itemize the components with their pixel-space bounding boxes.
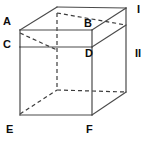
vertex-label-c: C <box>3 39 11 50</box>
edge-F-rightlower <box>92 92 126 115</box>
cuboid-figure: A B C D E F I II <box>0 0 149 146</box>
edge-topbackleft-topbackright <box>57 7 126 8</box>
hidden-edges-group <box>20 13 126 114</box>
edge-D-rightmid <box>92 25 126 47</box>
hidden-E-backbottom-diagonal <box>20 90 57 114</box>
vertex-label-a: A <box>3 16 11 27</box>
edge-A-topbackleft <box>20 7 57 30</box>
vertex-label-b: B <box>84 18 92 29</box>
edge-B-topbackright <box>92 8 126 30</box>
region-label-one: I <box>137 4 140 15</box>
vertex-label-f: F <box>86 124 93 135</box>
vertex-label-e: E <box>6 124 13 135</box>
vertex-label-d: D <box>85 48 93 59</box>
cuboid-drawing <box>0 0 149 146</box>
region-label-two: II <box>135 48 141 59</box>
solid-edges-group <box>20 7 126 115</box>
